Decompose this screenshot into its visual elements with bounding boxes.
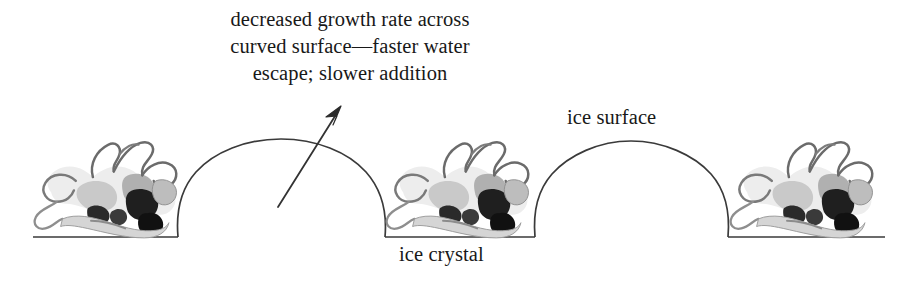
dome-left	[178, 139, 386, 237]
ice-growth-diagram: decreased growth rate across curved surf…	[0, 0, 918, 281]
ice-crystal-label: ice crystal	[399, 242, 484, 266]
annotation-line-3: escape; slower addition	[180, 60, 520, 87]
annotation-line-1: decreased growth rate across	[180, 6, 520, 33]
growth-rate-annotation: decreased growth rate across curved surf…	[180, 6, 520, 87]
protein-middle	[387, 142, 529, 238]
ice-surface-label: ice surface	[567, 105, 656, 129]
annotation-line-2: curved surface—faster water	[180, 33, 520, 60]
protein-right	[731, 142, 873, 238]
dome-right	[535, 141, 729, 237]
protein-left	[35, 142, 177, 238]
annotation-arrow	[278, 106, 341, 207]
